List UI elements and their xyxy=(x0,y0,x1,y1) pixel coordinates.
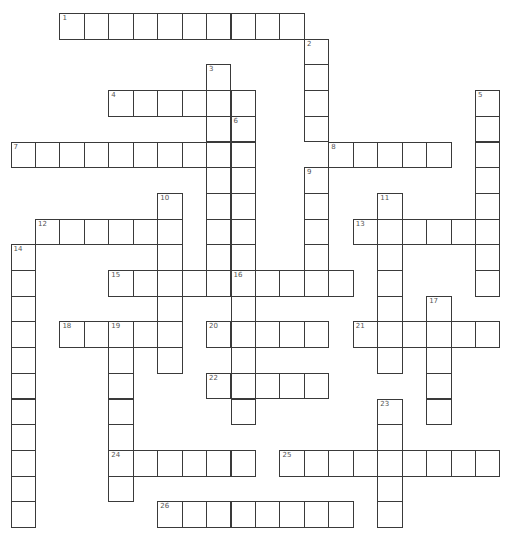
crossword-cell[interactable] xyxy=(328,501,353,528)
crossword-cell[interactable] xyxy=(255,270,280,297)
crossword-cell[interactable] xyxy=(353,450,378,477)
crossword-cell[interactable] xyxy=(231,13,256,40)
crossword-cell[interactable] xyxy=(402,142,427,169)
crossword-cell[interactable] xyxy=(108,476,133,503)
crossword-cell[interactable] xyxy=(231,399,256,426)
crossword-cell[interactable] xyxy=(157,244,182,271)
crossword-cell[interactable]: 13 xyxy=(353,219,378,246)
crossword-cell[interactable] xyxy=(231,296,256,323)
crossword-cell[interactable] xyxy=(402,321,427,348)
crossword-cell[interactable] xyxy=(304,193,329,220)
crossword-cell[interactable]: 3 xyxy=(206,64,231,91)
crossword-cell[interactable]: 19 xyxy=(108,321,133,348)
crossword-cell[interactable]: 11 xyxy=(377,193,402,220)
crossword-cell[interactable] xyxy=(377,270,402,297)
crossword-cell[interactable] xyxy=(328,450,353,477)
crossword-cell[interactable] xyxy=(377,450,402,477)
crossword-cell[interactable] xyxy=(255,501,280,528)
crossword-cell[interactable] xyxy=(402,450,427,477)
crossword-cell[interactable] xyxy=(11,424,36,451)
crossword-cell[interactable] xyxy=(157,219,182,246)
crossword-cell[interactable] xyxy=(279,501,304,528)
crossword-cell[interactable] xyxy=(11,399,36,426)
crossword-cell[interactable]: 14 xyxy=(11,244,36,271)
crossword-cell[interactable] xyxy=(11,296,36,323)
crossword-cell[interactable] xyxy=(133,270,158,297)
crossword-cell[interactable]: 8 xyxy=(328,142,353,169)
crossword-cell[interactable] xyxy=(231,219,256,246)
crossword-cell[interactable] xyxy=(182,13,207,40)
crossword-cell[interactable] xyxy=(402,219,427,246)
crossword-cell[interactable] xyxy=(84,13,109,40)
crossword-cell[interactable]: 16 xyxy=(231,270,256,297)
crossword-cell[interactable] xyxy=(377,296,402,323)
crossword-cell[interactable] xyxy=(206,116,231,143)
crossword-cell[interactable] xyxy=(206,219,231,246)
crossword-cell[interactable] xyxy=(304,450,329,477)
crossword-cell[interactable]: 15 xyxy=(108,270,133,297)
crossword-cell[interactable]: 23 xyxy=(377,399,402,426)
crossword-cell[interactable] xyxy=(231,193,256,220)
crossword-cell[interactable]: 7 xyxy=(11,142,36,169)
crossword-cell[interactable] xyxy=(206,193,231,220)
crossword-cell[interactable]: 6 xyxy=(231,116,256,143)
crossword-cell[interactable] xyxy=(304,64,329,91)
crossword-cell[interactable] xyxy=(231,90,256,117)
crossword-cell[interactable] xyxy=(182,270,207,297)
crossword-cell[interactable] xyxy=(108,424,133,451)
crossword-cell[interactable] xyxy=(157,296,182,323)
crossword-cell[interactable] xyxy=(108,347,133,374)
crossword-cell[interactable] xyxy=(182,90,207,117)
crossword-cell[interactable] xyxy=(377,476,402,503)
crossword-cell[interactable] xyxy=(206,270,231,297)
crossword-cell[interactable] xyxy=(304,244,329,271)
crossword-cell[interactable] xyxy=(11,476,36,503)
crossword-cell[interactable] xyxy=(11,321,36,348)
crossword-cell[interactable] xyxy=(108,13,133,40)
crossword-cell[interactable] xyxy=(451,219,476,246)
crossword-cell[interactable] xyxy=(279,373,304,400)
crossword-cell[interactable]: 10 xyxy=(157,193,182,220)
crossword-cell[interactable] xyxy=(133,90,158,117)
crossword-cell[interactable] xyxy=(133,450,158,477)
crossword-cell[interactable] xyxy=(206,90,231,117)
crossword-cell[interactable] xyxy=(304,219,329,246)
crossword-cell[interactable] xyxy=(84,219,109,246)
crossword-cell[interactable] xyxy=(133,219,158,246)
crossword-cell[interactable] xyxy=(11,373,36,400)
crossword-cell[interactable] xyxy=(279,13,304,40)
crossword-cell[interactable] xyxy=(426,347,451,374)
crossword-cell[interactable] xyxy=(84,321,109,348)
crossword-cell[interactable] xyxy=(304,90,329,117)
crossword-cell[interactable] xyxy=(377,219,402,246)
crossword-cell[interactable] xyxy=(426,450,451,477)
crossword-cell[interactable] xyxy=(133,142,158,169)
crossword-cell[interactable]: 2 xyxy=(304,39,329,66)
crossword-cell[interactable] xyxy=(255,373,280,400)
crossword-cell[interactable] xyxy=(133,13,158,40)
crossword-cell[interactable] xyxy=(279,270,304,297)
crossword-cell[interactable] xyxy=(377,424,402,451)
crossword-cell[interactable] xyxy=(11,501,36,528)
crossword-cell[interactable] xyxy=(475,167,500,194)
crossword-cell[interactable] xyxy=(157,13,182,40)
crossword-cell[interactable] xyxy=(451,321,476,348)
crossword-cell[interactable] xyxy=(133,321,158,348)
crossword-cell[interactable]: 1 xyxy=(59,13,84,40)
crossword-cell[interactable] xyxy=(157,321,182,348)
crossword-cell[interactable]: 4 xyxy=(108,90,133,117)
crossword-cell[interactable] xyxy=(108,219,133,246)
crossword-cell[interactable] xyxy=(231,167,256,194)
crossword-cell[interactable] xyxy=(231,373,256,400)
crossword-cell[interactable] xyxy=(108,399,133,426)
crossword-cell[interactable] xyxy=(255,321,280,348)
crossword-cell[interactable] xyxy=(206,244,231,271)
crossword-cell[interactable] xyxy=(59,219,84,246)
crossword-cell[interactable] xyxy=(11,450,36,477)
crossword-cell[interactable] xyxy=(475,450,500,477)
crossword-cell[interactable] xyxy=(182,142,207,169)
crossword-cell[interactable] xyxy=(475,219,500,246)
crossword-cell[interactable] xyxy=(157,270,182,297)
crossword-cell[interactable] xyxy=(377,347,402,374)
crossword-cell[interactable]: 17 xyxy=(426,296,451,323)
